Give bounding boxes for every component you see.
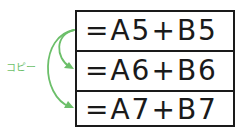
cell-row-1: =A5+B5: [77, 12, 233, 50]
cell-row-3: =A7+B7: [77, 90, 233, 127]
cell-row-2: =A6+B6: [77, 50, 233, 90]
copy-label: コピー: [6, 59, 36, 74]
formula-cells: =A5+B5 =A6+B6 =A7+B7: [75, 10, 235, 127]
